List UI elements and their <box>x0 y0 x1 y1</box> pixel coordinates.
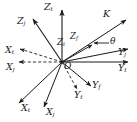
coordinate-frame-diagram: Zt Zj Zt Zf K θ Xt Xj Xt Xj Yj Yt Yf <box>0 0 137 122</box>
origin-label: O <box>64 62 71 71</box>
axis-label-y-j-right: Yj <box>118 47 126 58</box>
axis-label-theta: θ <box>110 37 115 46</box>
axis-label-z-t-vertical: Zt <box>44 2 53 13</box>
label-sub-t: t <box>80 94 82 100</box>
x-t-lower-axis <box>19 62 62 103</box>
axis-label-x-j-lower: Xj <box>46 107 55 118</box>
x-t-dashed-axis <box>20 49 62 62</box>
axis-label-z-t-center: Zt <box>57 38 65 47</box>
axis-label-x-j-dashed: Xj <box>6 62 15 73</box>
label-sub-t: t <box>124 67 126 73</box>
axis-label-y-t-lower: Yt <box>74 90 83 101</box>
axis-label-y-t-right: Yt <box>118 63 127 74</box>
label-sub-t: t <box>28 107 30 113</box>
label-text-x: X <box>46 106 53 117</box>
axis-label-z-j: Zj <box>17 16 25 27</box>
label-text-x: X <box>21 102 28 113</box>
label-text-x: X <box>6 61 13 72</box>
axis-label-x-t-dashed: Xt <box>5 45 14 56</box>
label-sub-f: f <box>76 35 78 41</box>
axis-label-z-f-center: Zf <box>70 32 78 41</box>
label-sub-j: j <box>24 20 26 26</box>
label-sub-t: t <box>51 6 53 12</box>
x-j-lower-axis <box>44 62 62 107</box>
label-sub-f: f <box>98 84 100 90</box>
label-sub-j: j <box>53 111 55 117</box>
axis-label-x-t-lower: Xt <box>21 103 30 114</box>
label-text-x: X <box>5 44 12 55</box>
axis-label-k-vector: K <box>103 9 110 19</box>
label-sub-t: t <box>12 49 14 55</box>
label-sub-j: j <box>124 51 126 57</box>
axis-label-y-f-lower: Yf <box>92 80 100 91</box>
label-text-z: Z <box>44 1 51 12</box>
label-text-z: Z <box>17 15 24 26</box>
label-sub-t: t <box>63 41 65 47</box>
label-sub-j: j <box>13 66 15 72</box>
